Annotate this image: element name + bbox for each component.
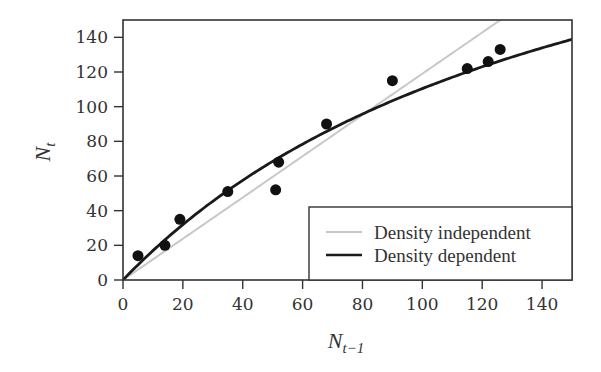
x-tick-label: 40 — [232, 294, 254, 314]
data-point — [273, 157, 284, 168]
data-point — [174, 214, 185, 225]
x-tick-label: 20 — [172, 294, 194, 314]
x-tick-label: 100 — [406, 294, 438, 314]
legend-label-density-dependent: Density dependent — [374, 245, 517, 266]
x-axis-label: Nt−1 — [327, 328, 364, 356]
y-tick-label: 20 — [86, 235, 108, 255]
data-point — [462, 63, 473, 74]
y-axis-label: Nt — [30, 142, 58, 163]
data-point — [132, 250, 143, 261]
y-tick-label: 100 — [76, 97, 108, 117]
x-tick-label: 60 — [292, 294, 314, 314]
y-tick-label: 40 — [86, 201, 108, 221]
y-tick-label: 140 — [76, 27, 108, 47]
data-point — [159, 240, 170, 251]
x-tick-label: 80 — [352, 294, 374, 314]
data-point — [270, 184, 281, 195]
data-point — [495, 44, 506, 55]
y-tick-label: 80 — [86, 131, 108, 151]
x-axis-label-main: N — [327, 328, 344, 353]
y-tick-label: 120 — [76, 62, 108, 82]
data-point — [483, 56, 494, 67]
x-tick-label: 0 — [118, 294, 129, 314]
y-axis-label-sub: t — [42, 142, 58, 147]
y-tick-label: 60 — [86, 166, 108, 186]
svg-text:Nt: Nt — [30, 142, 58, 163]
data-point — [222, 186, 233, 197]
legend-box — [309, 207, 572, 280]
y-axis-label-main: N — [30, 145, 55, 162]
legend: Density independent Density dependent — [309, 207, 572, 280]
x-tick-label: 120 — [466, 294, 498, 314]
data-point — [321, 119, 332, 130]
y-tick-label: 0 — [97, 270, 108, 290]
data-point — [387, 75, 398, 86]
chart: 020406080100120140020406080100120140 Den… — [0, 0, 601, 372]
x-axis-label-sub: t−1 — [342, 340, 364, 356]
x-tick-label: 140 — [526, 294, 558, 314]
legend-label-density-independent: Density independent — [374, 222, 531, 243]
